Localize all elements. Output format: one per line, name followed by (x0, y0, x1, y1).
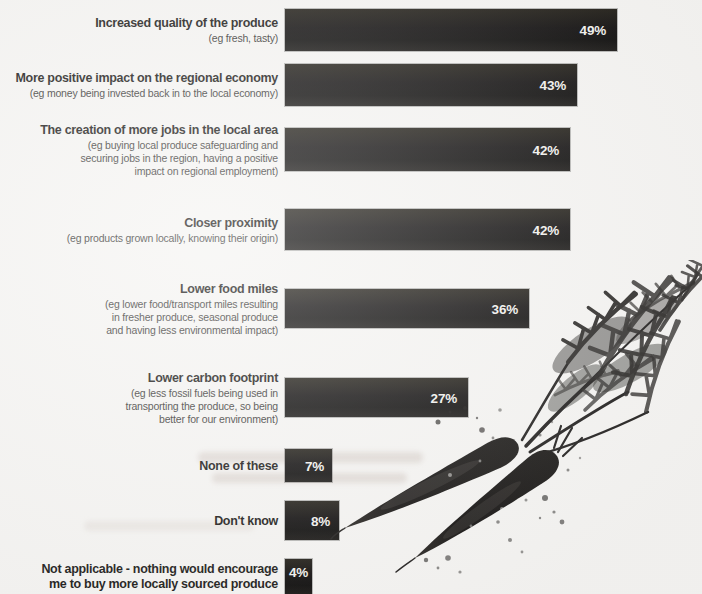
bar-row-regional-economy: More positive impact on the regional eco… (0, 64, 702, 106)
category-sublabel: (eg fresh, tasty) (0, 32, 278, 45)
category-label: None of these (0, 458, 278, 473)
bar-value-label: 8% (311, 513, 330, 528)
category-sublabel: (eg less fossil fuels being used in tran… (0, 386, 278, 425)
category-label-block: None of these (0, 458, 278, 473)
bar-value-label: 43% (540, 78, 566, 93)
bar-chart: Increased quality of the produce (eg fre… (0, 0, 702, 594)
category-sublabel: (eg lower food/transport miles resulting… (0, 297, 278, 336)
category-label: Increased quality of the produce (0, 16, 278, 31)
category-label-block: More positive impact on the regional eco… (0, 71, 278, 100)
bar-row-closer-proximity: Closer proximity (eg products grown loca… (0, 209, 702, 250)
bar-value-label: 7% (305, 458, 324, 473)
category-sublabel: (eg products grown locally, knowing thei… (0, 231, 278, 244)
category-label: Lower food miles (0, 281, 278, 296)
bar-row-increased-quality: Increased quality of the produce (eg fre… (0, 9, 702, 51)
category-label: Don't know (0, 513, 278, 528)
category-label: More positive impact on the regional eco… (0, 71, 278, 86)
bar-value-label: 49% (580, 23, 606, 38)
category-label-block: The creation of more jobs in the local a… (0, 122, 278, 177)
category-label-block: Increased quality of the produce (eg fre… (0, 16, 278, 45)
bar: 43% (285, 64, 577, 106)
category-sublabel: (eg money being invested back in to the … (0, 87, 278, 100)
bar-value-label: 42% (533, 222, 559, 237)
bar: 7% (285, 449, 332, 482)
category-label: The creation of more jobs in the local a… (0, 122, 278, 137)
category-label-block: Closer proximity (eg products grown loca… (0, 215, 278, 244)
category-label-block: Lower food miles (eg lower food/transpor… (0, 281, 278, 336)
bar-value-label: 4% (289, 565, 308, 580)
category-label-block: Lower carbon footprint (eg less fossil f… (0, 370, 278, 425)
bar-row-local-jobs: The creation of more jobs in the local a… (0, 128, 702, 171)
bar: 49% (285, 9, 617, 51)
bar-value-label: 42% (533, 142, 559, 157)
carrots-illustration (330, 260, 702, 594)
category-sublabel: (eg buying local produce safeguarding an… (0, 138, 278, 177)
category-label-block: Don't know (0, 513, 278, 528)
bar: 42% (285, 128, 570, 171)
category-label: Closer proximity (0, 215, 278, 230)
category-label: Not applicable - nothing would encourage… (0, 562, 278, 592)
category-label-block: Not applicable - nothing would encourage… (0, 562, 278, 592)
bar: 42% (285, 209, 570, 250)
category-label: Lower carbon footprint (0, 370, 278, 385)
bar: 4% (285, 559, 312, 594)
